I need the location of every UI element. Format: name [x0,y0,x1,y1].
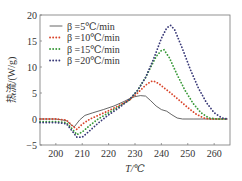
legend-label: β =20℃/min [67,55,120,66]
dsc-heat-flow-chart: −505101520 200210220230240250260 β =5℃/m… [0,0,242,181]
x-tick-label: 230 [128,148,143,159]
y-axis-label: 热流/(W/g) [5,57,18,104]
y-tick-label: −5 [26,140,37,151]
y-tick-label: 10 [27,62,37,73]
x-tick-label: 200 [48,148,63,159]
legend-label: β =10℃/min [67,32,120,43]
y-tick-label: 0 [32,114,37,125]
x-axis-label: T/℃ [125,163,145,174]
y-tick-label: 15 [27,36,37,47]
legend-label: β =15℃/min [67,44,120,55]
x-tick-label: 260 [207,148,222,159]
x-tick-label: 210 [75,148,90,159]
x-tick-label: 240 [154,148,169,159]
x-tick-label: 250 [180,148,195,159]
y-tick-label: 20 [27,10,37,21]
legend-label: β =5℃/min [67,21,115,32]
y-tick-label: 5 [32,88,37,99]
legend: β =5℃/minβ =10℃/minβ =15℃/minβ =20℃/min [50,21,120,67]
x-tick-label: 220 [101,148,116,159]
